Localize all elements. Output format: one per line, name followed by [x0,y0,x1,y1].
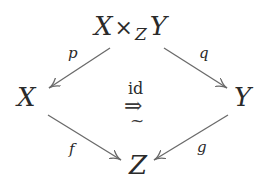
object-y: Y [234,84,251,110]
fiber-product-right: Y [150,11,167,41]
commutative-diagram: X×ZY X Y Z p q f g id ⇒ ~ [0,0,267,188]
fiber-product-subscript: Z [135,24,147,44]
arrow-q [164,48,227,88]
object-x: X [17,84,36,110]
arrow-g [154,115,228,160]
tilde-icon: ~ [130,112,144,129]
arrow-p [49,48,110,88]
label-p: p [68,46,78,61]
times-symbol: × [115,15,133,40]
object-z: Z [129,152,147,178]
object-fiber-product: X×ZY [94,13,167,39]
arrow-f [48,115,121,160]
label-g: g [197,140,207,155]
fiber-product-left: X [94,11,113,41]
label-f: f [69,142,75,157]
label-q: q [199,46,209,61]
